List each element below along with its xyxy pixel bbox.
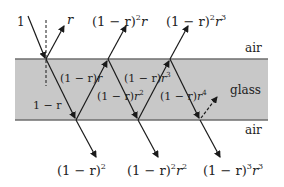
label-internal-second-down: (1 − r)r2 [97,89,144,103]
transmitted-ray-1 [76,120,96,157]
label-air-bottom: air [245,123,262,137]
reflected-ray-1 [46,26,64,59]
label-reflected-1: r [67,12,74,27]
label-reflected-2: (1 − r)2r [92,13,148,29]
label-reflected-3: (1 − r)2r3 [166,13,226,29]
reflected-ray-2 [108,26,126,59]
label-internal-first-up: (1 − r)r [60,72,103,85]
label-transmitted-1: (1 − r)2 [57,162,106,178]
incident-ray [28,16,45,58]
label-transmitted-3: (1 − r)3r3 [203,162,263,178]
label-internal-third-down: (1 − r)r4 [160,89,207,103]
label-internal-first-down: 1 − r [33,99,62,112]
label-transmitted-2: (1 − r)2r2 [127,162,187,178]
label-air-top: air [245,41,262,55]
transmitted-ray-3 [200,120,220,157]
reflected-ray-3 [170,26,188,59]
thin-film-reflection-diagram: air glass air 1 r (1 − r)2r (1 − r)2r3 1… [0,0,284,187]
label-glass: glass [230,83,261,97]
label-internal-second-up: (1 − r)r3 [124,71,171,85]
transmitted-ray-2 [138,120,158,157]
label-incident: 1 [17,15,25,29]
